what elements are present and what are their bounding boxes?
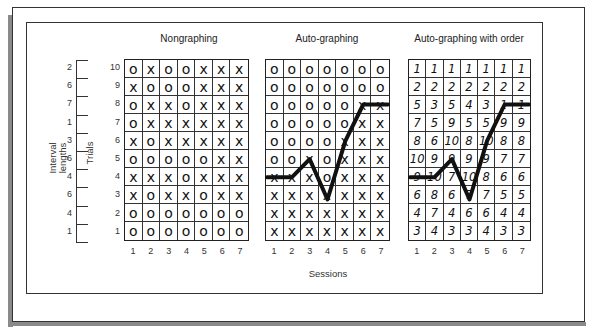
grid-cell: 7 <box>478 186 495 204</box>
interval-bracket <box>76 187 88 206</box>
grid-cell: x <box>319 186 337 204</box>
grid-cell: 7 <box>461 186 478 204</box>
grid-cell: 1 <box>495 96 512 114</box>
grid-cell: x <box>354 204 372 222</box>
grid-cell: x <box>336 168 354 186</box>
grid-cell: x <box>213 114 231 132</box>
session-number: 7 <box>232 246 249 256</box>
grid-cell: x <box>230 186 248 204</box>
grid-cell: x <box>160 132 178 150</box>
trial-number: 4 <box>106 171 120 181</box>
grid-cell: x <box>178 132 196 150</box>
grid-cell: x <box>213 60 231 78</box>
grid-cell: x <box>371 150 389 168</box>
session-number: 3 <box>301 246 318 256</box>
grid-cell: 5 <box>513 186 530 204</box>
session-number: 2 <box>426 246 443 256</box>
session-number: 5 <box>337 246 354 256</box>
grid-cell: 7 <box>513 150 530 168</box>
interval-bracket-end <box>76 242 88 243</box>
grid-cell: x <box>336 150 354 168</box>
grid-cell: o <box>160 60 178 78</box>
panel-title-nongraphing: Nongraphing <box>134 33 244 45</box>
session-number: 2 <box>283 246 300 256</box>
grid-cell: o <box>178 204 196 222</box>
panel-title-auto-graphing-with-order: Auto-graphing with order <box>414 33 524 45</box>
trial-number: 7 <box>106 117 120 127</box>
grid-cell: x <box>213 132 231 150</box>
grid-cell: 6 <box>409 186 426 204</box>
grid-cell: x <box>143 168 161 186</box>
interval-length-value: 6 <box>60 153 72 163</box>
grid-cell: 9 <box>426 150 443 168</box>
grid-cell: x <box>266 222 284 240</box>
grid-cell: o <box>178 96 196 114</box>
grid-cell: 1 <box>478 60 495 78</box>
grid-cell: x <box>284 222 302 240</box>
grid-cell: 2 <box>513 78 530 96</box>
grid-cell: o <box>336 96 354 114</box>
grid-cell: 5 <box>409 96 426 114</box>
grid-cell: 9 <box>444 150 461 168</box>
trial-number: 1 <box>106 226 120 236</box>
grid-auto-graphing: oooooooooooooooooooxxoooooxxooooxxxooxox… <box>265 59 390 241</box>
grid-cell: o <box>195 222 213 240</box>
grid-cell: 1 <box>409 60 426 78</box>
grid-cell: 9 <box>461 150 478 168</box>
grid-cell: x <box>371 186 389 204</box>
session-number: 4 <box>178 246 195 256</box>
grid-cell: o <box>143 186 161 204</box>
grid-cell: x <box>213 186 231 204</box>
interval-length-value: 4 <box>60 208 72 218</box>
grid-cell: o <box>160 78 178 96</box>
grid-cell: o <box>160 204 178 222</box>
grid-cell: o <box>319 78 337 96</box>
grid-cell: o <box>125 150 143 168</box>
grid-cell: 7 <box>409 114 426 132</box>
grid-cell: x <box>230 60 248 78</box>
grid-cell: o <box>284 60 302 78</box>
grid-cell: 3 <box>461 222 478 240</box>
grid-cell: x <box>195 168 213 186</box>
grid-cell: 9 <box>513 114 530 132</box>
grid-cell: o <box>143 132 161 150</box>
grid-cell: x <box>230 78 248 96</box>
grid-cell: o <box>178 150 196 168</box>
grid-cell: o <box>301 78 319 96</box>
grid-cell: o <box>195 150 213 168</box>
session-number: 4 <box>319 246 336 256</box>
grid-cell: x <box>319 204 337 222</box>
grid-cell: 6 <box>513 168 530 186</box>
grid-cell: x <box>125 78 143 96</box>
grid-cell: 4 <box>513 204 530 222</box>
trial-number: 8 <box>106 98 120 108</box>
grid-cell: 8 <box>495 132 512 150</box>
interval-bracket <box>76 96 88 115</box>
grid-cell: o <box>301 132 319 150</box>
grid-cell: o <box>178 78 196 96</box>
grid-cell: o <box>301 96 319 114</box>
grid-cell: 7 <box>495 150 512 168</box>
grid-cell: x <box>195 114 213 132</box>
grid-cell: 2 <box>461 78 478 96</box>
grid-cell: x <box>354 96 372 114</box>
grid-cell: 8 <box>478 168 495 186</box>
interval-bracket <box>76 78 88 97</box>
sessions-axis-label: Sessions <box>298 268 358 279</box>
grid-cell: 2 <box>409 78 426 96</box>
grid-cell: x <box>371 168 389 186</box>
grid-cell: x <box>284 168 302 186</box>
grid-cell: 7 <box>444 168 461 186</box>
grid-cell: 2 <box>478 78 495 96</box>
session-number: 5 <box>479 246 496 256</box>
grid-cell: x <box>230 168 248 186</box>
grid-cell: o <box>301 114 319 132</box>
grid-cell: x <box>178 186 196 204</box>
grid-cell: 9 <box>409 168 426 186</box>
grid-cell: x <box>230 114 248 132</box>
grid-cell: 10 <box>444 132 461 150</box>
grid-cell: 1 <box>513 60 530 78</box>
grid-cell: 4 <box>461 96 478 114</box>
grid-cell: x <box>301 222 319 240</box>
grid-cell: x <box>284 204 302 222</box>
